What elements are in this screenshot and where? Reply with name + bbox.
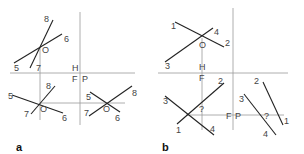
label: 8 xyxy=(132,88,137,98)
panel-b: 1 4 2 O 3 H F F P 2 3 ? 1 4 2 3 ? 1 4 b xyxy=(158,8,289,153)
label: 1 xyxy=(176,125,181,135)
panel-a-top-line-65 xyxy=(14,34,62,63)
label: 6 xyxy=(62,113,67,123)
descriptive-geometry-diagram: 8 6 O 5 7 H F P 8 5 O 7 6 8 5 O 7 6 a 1 xyxy=(0,0,304,154)
label: 7 xyxy=(36,63,41,73)
label: 5 xyxy=(86,92,91,102)
label-F: F xyxy=(199,73,205,83)
label: 4 xyxy=(263,129,268,139)
label: 4 xyxy=(214,27,219,37)
panel-a-top-line-87 xyxy=(30,20,53,68)
panel-a-front-line-56 xyxy=(12,95,63,113)
label: 4 xyxy=(210,124,215,134)
label: 8 xyxy=(44,14,49,24)
label: O xyxy=(42,45,49,55)
label: 7 xyxy=(84,108,89,118)
label-P: P xyxy=(82,74,88,84)
label: 6 xyxy=(115,113,120,123)
label-P: P xyxy=(235,111,241,121)
label: 2 xyxy=(254,76,259,86)
label: 2 xyxy=(218,76,223,86)
label-H: H xyxy=(199,62,206,72)
label: 6 xyxy=(64,34,69,44)
label: ? xyxy=(264,111,269,121)
label: 8 xyxy=(46,81,51,91)
label-H: H xyxy=(72,63,79,73)
label: O xyxy=(40,104,47,114)
label: 3 xyxy=(165,61,170,71)
label: 1 xyxy=(284,116,289,126)
label: 3 xyxy=(239,94,244,104)
label: 5 xyxy=(14,63,19,73)
panel-a: 8 6 O 5 7 H F P 8 5 O 7 6 8 5 O 7 6 a xyxy=(8,12,137,153)
label: O xyxy=(199,40,206,50)
label: 2 xyxy=(225,38,230,48)
label: 1 xyxy=(171,21,176,31)
panel-b-label: b xyxy=(162,141,169,153)
label-F: F xyxy=(226,111,232,121)
label: ? xyxy=(199,104,204,114)
label: 7 xyxy=(24,109,29,119)
label-F: F xyxy=(72,74,78,84)
label: 3 xyxy=(163,96,168,106)
label: 5 xyxy=(8,91,13,101)
panel-b-front-line-34 xyxy=(165,96,214,135)
panel-a-label: a xyxy=(16,141,23,153)
panel-a-profile-line-87 xyxy=(89,86,132,116)
label: O xyxy=(103,104,110,114)
